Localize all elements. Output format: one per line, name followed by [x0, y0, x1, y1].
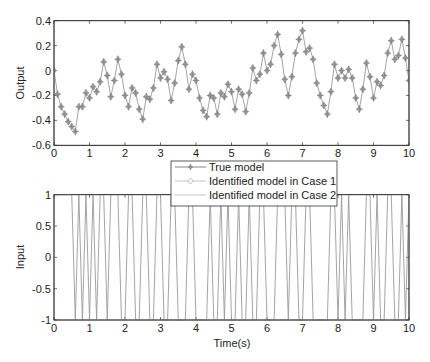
x-tick-label: 9 [370, 322, 376, 334]
y-tick-label: 0.2 [36, 40, 51, 52]
legend-label: Identified model in Case 2 [209, 189, 336, 201]
x-tick-label: 7 [299, 147, 305, 159]
axes-frame [54, 21, 409, 146]
x-tick-label: 10 [403, 147, 415, 159]
x-tick-label: 1 [86, 147, 92, 159]
y-tick-label: -1 [41, 314, 51, 326]
y-tick-label: -0.2 [32, 89, 51, 101]
x-tick-label: 2 [122, 322, 128, 334]
y-tick-label: 0 [45, 65, 51, 77]
y-tick-label: 0.4 [36, 15, 51, 27]
x-tick-label: 9 [370, 147, 376, 159]
x-tick-label: 1 [86, 322, 92, 334]
input-axis-label: Input [14, 245, 26, 269]
y-tick-label: 1 [45, 189, 51, 201]
output-axis-label: Output [14, 66, 26, 99]
output-plot: 0123456789100.40.20-0.2-0.4-0.6 [32, 15, 415, 160]
x-tick-label: 10 [403, 322, 415, 334]
x-tick-label: 6 [264, 322, 270, 334]
x-tick-label: 2 [122, 147, 128, 159]
y-tick-label: -0.6 [32, 139, 51, 151]
x-tick-label: 4 [193, 147, 199, 159]
x-tick-label: 3 [157, 147, 163, 159]
x-tick-label: 5 [228, 322, 234, 334]
x-tick-label: 6 [264, 147, 270, 159]
input-plot: 01234567891010.50-0.5-1 [32, 189, 415, 334]
x-tick-label: 3 [157, 322, 163, 334]
y-tick-label: 0.5 [36, 220, 51, 232]
axes-frame [54, 195, 409, 320]
y-tick-label: -0.5 [32, 283, 51, 295]
x-tick-label: 8 [335, 322, 341, 334]
x-tick-label: 0 [51, 322, 57, 334]
legend: True modelIdentified model in Case 1Iden… [171, 161, 337, 206]
x-tick-label: 0 [51, 147, 57, 159]
y-tick-label: -0.4 [32, 114, 51, 126]
x-tick-label: 5 [228, 147, 234, 159]
x-tick-label: 7 [299, 322, 305, 334]
x-tick-label: 8 [335, 147, 341, 159]
y-tick-label: 0 [45, 251, 51, 263]
time-axis-label: Time(s) [214, 337, 251, 349]
figure: 0123456789100.40.20-0.2-0.4-0.6 01234567… [0, 0, 430, 362]
legend-label: True model [209, 161, 264, 173]
legend-label: Identified model in Case 1 [209, 175, 336, 187]
x-tick-label: 4 [193, 322, 199, 334]
